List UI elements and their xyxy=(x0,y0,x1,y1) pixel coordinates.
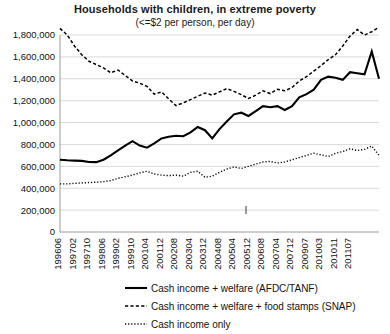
grid-lines xyxy=(60,35,379,232)
x-axis-tick-label: 200208 xyxy=(168,238,179,270)
x-axis-tick-label: 200104 xyxy=(139,238,150,270)
x-axis-tick-label: 200512 xyxy=(241,238,252,270)
legend-label-3: Cash income only xyxy=(151,319,230,330)
y-axis-tick-label: 200,000 xyxy=(21,205,55,216)
x-axis-tick-label: 201011 xyxy=(328,238,339,269)
data-series-group xyxy=(60,27,379,184)
x-axis-tick-label: 201003 xyxy=(313,238,324,270)
y-axis-tick-label: 1,800,000 xyxy=(13,29,55,40)
x-axis-tick-label: 199702 xyxy=(67,238,78,270)
x-axis-tick-label: 199606 xyxy=(52,238,63,270)
legend-label-1: Cash income + welfare (AFDC/TANF) xyxy=(151,283,318,294)
chart-container: Households with children, in extreme pov… xyxy=(0,0,390,334)
series-line-3 xyxy=(60,146,379,184)
x-axis-tick-label: 199902 xyxy=(110,238,121,270)
x-axis-tick-label: 200112 xyxy=(154,238,165,269)
y-axis-tick-label: 1,400,000 xyxy=(13,73,55,84)
y-axis-labels: 0200,000400,000600,000800,0001,000,0001,… xyxy=(13,29,55,237)
y-axis-tick-label: 400,000 xyxy=(21,183,55,194)
chart-legend: Cash income + welfare (AFDC/TANF)Cash in… xyxy=(125,283,356,330)
x-axis-tick-label: 200608 xyxy=(255,238,266,270)
legend-label-2: Cash income + welfare + food stamps (SNA… xyxy=(151,301,356,312)
x-axis-labels: 1996061997021997101998061999021999102001… xyxy=(52,206,353,270)
x-axis-tick-label: 200504 xyxy=(226,238,237,270)
x-axis-tick-label: 199910 xyxy=(125,238,136,270)
y-axis-tick-label: 0 xyxy=(50,226,55,237)
y-axis-tick-label: 1,200,000 xyxy=(13,95,55,106)
series-line-1 xyxy=(60,51,379,162)
x-axis-tick-label: 200304 xyxy=(183,238,194,270)
series-line-2 xyxy=(60,27,379,105)
x-axis-tick-label: 200712 xyxy=(284,238,295,270)
x-axis-tick-label: 199710 xyxy=(81,238,92,270)
y-axis-tick-label: 600,000 xyxy=(21,161,55,172)
y-axis-tick-label: 800,000 xyxy=(21,139,55,150)
y-axis-tick-label: 1,000,000 xyxy=(13,117,55,128)
chart-plot: 0200,000400,000600,000800,0001,000,0001,… xyxy=(0,0,390,334)
y-axis-tick-label: 1,600,000 xyxy=(13,51,55,62)
x-axis-tick-label: 199806 xyxy=(96,238,107,270)
x-axis-tick-label: 200704 xyxy=(270,238,281,270)
x-axis-tick-label: 200408 xyxy=(212,238,223,270)
x-axis-tick-label: 200907 xyxy=(299,238,310,270)
x-axis-tick-label: 200312 xyxy=(197,238,208,270)
x-axis-tick-label: 201107 xyxy=(342,238,353,269)
